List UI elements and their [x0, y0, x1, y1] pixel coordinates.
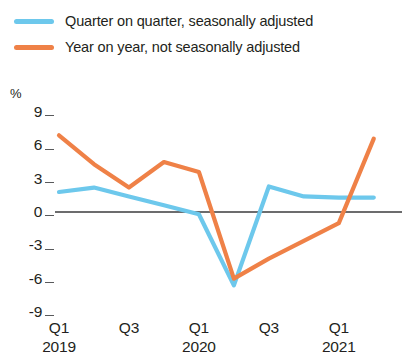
- plot-area: [55, 112, 410, 312]
- legend-swatch-year-on-year: [14, 45, 54, 50]
- y-axis-tick-label: 3: [0, 170, 54, 188]
- y-axis-tick-label: 9: [0, 103, 54, 121]
- legend-label-quarter-on-quarter: Quarter on quarter, seasonally adjusted: [65, 13, 313, 29]
- x-axis-ticks: Q12019Q3Q12020Q3Q12021: [0, 318, 417, 358]
- y-axis-tick-mark: [45, 249, 54, 250]
- chart-legend: Quarter on quarter, seasonally adjusted …: [14, 8, 414, 60]
- legend-label-year-on-year: Year on year, not seasonally adjusted: [65, 39, 300, 55]
- y-axis-tick-mark: [45, 149, 54, 150]
- x-axis-year-label: 2020: [182, 337, 216, 356]
- y-axis-tick-label: -3: [0, 236, 54, 254]
- x-axis-tick-label: Q12019: [42, 318, 76, 356]
- legend-swatch-quarter-on-quarter: [14, 19, 54, 24]
- y-axis-tick-mark: [45, 115, 54, 116]
- x-axis-tick-label: Q12020: [182, 318, 216, 356]
- x-axis-tick-label: Q3: [119, 318, 139, 337]
- y-axis-tick-label: 6: [0, 136, 54, 154]
- y-axis-tick-label: 0: [0, 203, 54, 221]
- series-line-year-on-year: [59, 135, 374, 278]
- series-line-quarter-on-quarter: [59, 186, 374, 285]
- chart-container: Quarter on quarter, seasonally adjusted …: [0, 0, 417, 358]
- y-axis-tick-mark: [45, 282, 54, 283]
- y-axis-unit-label: %: [10, 86, 22, 101]
- y-axis-tick-label: -6: [0, 270, 54, 288]
- x-axis-tick-label: Q3: [259, 318, 279, 337]
- legend-item-quarter-on-quarter: Quarter on quarter, seasonally adjusted: [14, 8, 414, 34]
- x-axis-year-label: 2021: [322, 337, 356, 356]
- series-svg: [55, 112, 410, 312]
- y-axis-tick-mark: [45, 182, 54, 183]
- x-axis-year-label: 2019: [42, 337, 76, 356]
- y-axis-tick-mark: [45, 215, 54, 216]
- y-axis-tick-mark: [45, 315, 54, 316]
- x-axis-tick-label: Q12021: [322, 318, 356, 356]
- legend-item-year-on-year: Year on year, not seasonally adjusted: [14, 34, 414, 60]
